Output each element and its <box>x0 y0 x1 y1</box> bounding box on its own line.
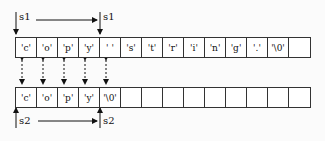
array-cell <box>289 88 310 107</box>
array-cell <box>163 88 184 107</box>
s2-start-label: s2 <box>19 115 31 126</box>
array-cell: 'o' <box>37 88 58 107</box>
array-cell: 's' <box>121 38 142 57</box>
array-cell <box>226 88 247 107</box>
array-cell: 'p' <box>58 38 79 57</box>
array-cell: 'n' <box>205 38 226 57</box>
array-cell: ' ' <box>100 38 121 57</box>
bottom-array: 'c' 'o' 'p' 'y' '\0' <box>15 87 311 108</box>
array-cell <box>268 88 289 107</box>
array-cell: '.' <box>247 38 268 57</box>
s1-end-label: s1 <box>103 11 115 22</box>
array-cell: 'c' <box>16 88 37 107</box>
array-cell <box>121 88 142 107</box>
array-cell: 'i' <box>184 38 205 57</box>
arrows-layer <box>0 0 325 141</box>
array-cell <box>289 38 310 57</box>
s1-start-label: s1 <box>19 11 31 22</box>
top-array: 'c' 'o' 'p' 'y' ' ' 's' 't' 'r' 'i' 'n' … <box>15 37 311 58</box>
array-cell <box>142 88 163 107</box>
array-cell: '\0' <box>268 38 289 57</box>
array-cell: 't' <box>142 38 163 57</box>
array-cell: 'p' <box>58 88 79 107</box>
array-cell: 'y' <box>79 88 100 107</box>
array-cell <box>247 88 268 107</box>
s2-end-label: s2 <box>103 115 115 126</box>
array-cell: 'y' <box>79 38 100 57</box>
array-cell: 'r' <box>163 38 184 57</box>
array-cell: 'g' <box>226 38 247 57</box>
array-cell: 'o' <box>37 38 58 57</box>
array-cell: 'c' <box>16 38 37 57</box>
array-cell <box>184 88 205 107</box>
array-cell: '\0' <box>100 88 121 107</box>
array-cell <box>205 88 226 107</box>
